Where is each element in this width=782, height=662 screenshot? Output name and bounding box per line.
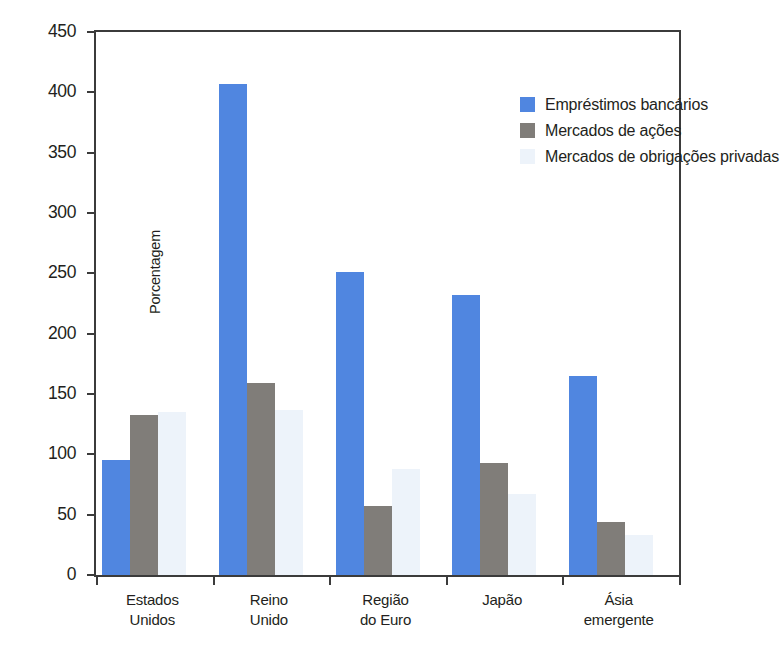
y-axis-tick-mark [87,574,96,576]
bar [392,469,420,575]
y-axis-tick-label: 450 [16,21,76,42]
y-axis-tick-mark [87,91,96,93]
x-axis-tick-mark [679,575,681,585]
y-axis-tick-label: 350 [16,142,76,163]
bar [480,463,508,575]
bar [158,412,186,575]
x-axis-category-line: emergente [544,610,694,630]
legend-swatch-bank-loans [520,97,535,112]
bar [130,415,158,575]
x-axis-tick-mark [329,575,331,585]
x-axis-tick-mark [446,575,448,585]
legend-swatch-equity-markets [520,123,535,138]
legend-label-private-bond-markets: Mercados de obrigações privadas [545,146,779,167]
bar [508,494,536,575]
y-axis-tick-mark [87,514,96,516]
bar [569,376,597,575]
y-axis-tick-mark [87,212,96,214]
y-axis-tick-mark [87,393,96,395]
y-axis-tick-mark [87,272,96,274]
y-axis-tick-mark [87,453,96,455]
bar-group [336,32,420,575]
y-axis-tick-mark [87,31,96,33]
bar [275,410,303,575]
x-axis-tick-mark [213,575,215,585]
y-axis-tick-label: 300 [16,202,76,223]
bar [247,383,275,575]
bar [452,295,480,575]
x-axis-tick-mark [562,575,564,585]
x-axis-category-line: Ásia [544,590,694,610]
x-axis-category-label: Ásiaemergente [544,590,694,630]
x-axis-tick-mark [96,575,98,585]
y-axis-tick-label: 50 [16,504,76,525]
y-axis-tick-label: 100 [16,443,76,464]
legend-item-bank-loans: Empréstimos bancários [520,94,782,115]
y-axis-tick-label: 400 [16,81,76,102]
plot-area: Porcentagem 450400350300250200150100500 … [94,30,681,577]
bar [364,506,392,575]
bar [625,535,653,575]
bar-group [102,32,186,575]
legend-label-bank-loans: Empréstimos bancários [545,94,708,115]
legend-label-equity-markets: Mercados de ações [545,120,681,141]
legend-swatch-private-bond-markets [520,149,535,164]
x-axis-category-line: do Euro [311,610,461,630]
y-axis-tick-mark [87,152,96,154]
y-axis-tick-label: 200 [16,323,76,344]
bar-group [219,32,303,575]
y-axis-tick-mark [87,333,96,335]
bar [219,84,247,575]
bar [102,460,130,575]
scan-artifact [0,648,709,662]
bar [597,522,625,575]
y-axis-tick-label: 0 [16,564,76,585]
legend-item-private-bond-markets: Mercados de obrigações privadas [520,146,782,167]
bar [336,272,364,575]
y-axis-tick-label: 150 [16,383,76,404]
y-axis-tick-label: 250 [16,262,76,283]
chart-legend: Empréstimos bancários Mercados de ações … [520,94,782,172]
legend-item-equity-markets: Mercados de ações [520,120,782,141]
